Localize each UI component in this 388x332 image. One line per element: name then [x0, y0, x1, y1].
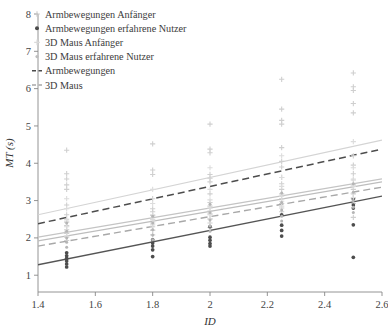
data-point [351, 215, 356, 220]
legend-label: Armbewegungen Anfänger [45, 9, 156, 20]
data-point [150, 201, 155, 206]
data-point [64, 206, 69, 211]
data-point [150, 141, 155, 146]
legend-dot-icon [35, 26, 39, 30]
data-point [65, 230, 68, 233]
data-point [150, 187, 155, 192]
data-point [351, 153, 356, 158]
data-point [207, 187, 212, 192]
data-point [151, 255, 155, 259]
data-point [151, 228, 154, 231]
x-tick-label: 1.8 [146, 299, 159, 310]
y-axis-title: MT (s) [3, 138, 16, 169]
data-point [151, 248, 155, 252]
data-point [279, 153, 284, 158]
legend-plus-icon [34, 11, 40, 17]
data-point [64, 148, 69, 153]
data-point [352, 211, 355, 214]
data-point [351, 139, 356, 144]
data-point [64, 182, 69, 187]
y-tick-label: 8 [26, 9, 31, 20]
data-point [64, 171, 69, 176]
x-tick-label: 1.4 [31, 299, 45, 310]
data-point [150, 167, 155, 172]
data-point [151, 233, 154, 236]
data-point [64, 196, 69, 201]
data-point [280, 215, 283, 218]
data-point [280, 234, 284, 238]
data-point [280, 208, 283, 211]
data-point [151, 244, 155, 248]
x-axis-title: ID [203, 315, 216, 327]
data-point [279, 77, 284, 82]
data-point [207, 191, 212, 196]
data-point [207, 121, 212, 126]
data-point [351, 88, 356, 93]
data-point [280, 220, 283, 223]
data-point [351, 70, 356, 75]
data-point [150, 196, 155, 201]
data-point [64, 176, 69, 181]
legend-dot-small-icon [35, 55, 38, 58]
y-tick-label: 5 [26, 121, 31, 132]
data-point [207, 197, 212, 202]
y-tick-label: 3 [26, 195, 31, 206]
data-point [279, 164, 284, 169]
data-point [209, 211, 212, 214]
data-point [279, 175, 284, 180]
legend-label: Armbewegungen [45, 65, 115, 76]
data-point [151, 221, 154, 224]
data-point [65, 246, 68, 249]
data-point [352, 191, 355, 194]
data-point [208, 244, 212, 248]
data-point [280, 201, 283, 204]
y-tick-label: 2 [26, 232, 31, 243]
data-point [279, 107, 284, 112]
x-tick-label: 2.4 [318, 299, 332, 310]
data-point [351, 101, 356, 106]
data-point [65, 236, 68, 239]
data-point [208, 238, 212, 242]
legend-label: 3D Maus [45, 80, 83, 91]
data-point [64, 224, 69, 229]
y-tick-label: 1 [26, 270, 31, 281]
data-point [351, 110, 356, 115]
data-point [209, 203, 212, 206]
data-point [351, 171, 356, 176]
data-point [280, 229, 284, 233]
data-point [280, 223, 284, 227]
data-point [207, 179, 212, 184]
x-tick-label: 1.6 [89, 299, 102, 310]
y-tick-label: 6 [26, 83, 31, 94]
data-point [351, 176, 356, 181]
data-point [352, 182, 355, 185]
data-point [207, 150, 212, 155]
data-point [207, 165, 212, 170]
data-point [64, 187, 69, 192]
data-point [65, 265, 69, 269]
data-point [151, 215, 154, 218]
chart-container: 123456781.41.61.822.22.42.6IDMT (s)Armbe… [0, 0, 388, 332]
data-point [351, 165, 356, 170]
data-point [65, 241, 68, 244]
scatter-plot: 123456781.41.61.822.22.42.6IDMT (s)Armbe… [0, 0, 388, 332]
data-point [151, 238, 154, 241]
x-tick-label: 2.6 [375, 299, 388, 310]
data-point [351, 223, 355, 227]
x-tick-label: 2.2 [261, 299, 274, 310]
data-point [351, 255, 355, 259]
data-point [352, 206, 355, 209]
y-tick-label: 7 [26, 46, 31, 57]
legend-label: 3D Maus Anfänger [45, 37, 124, 48]
legend: Armbewegungen AnfängerArmbewegungen erfa… [32, 9, 187, 91]
data-point [279, 121, 284, 126]
data-point [150, 172, 155, 177]
legend-plus-icon [34, 40, 40, 46]
y-tick-label: 4 [26, 158, 32, 169]
legend-label: 3D Maus erfahrene Nutzer [45, 51, 155, 62]
legend-label: Armbewegungen erfahrene Nutzer [45, 23, 187, 34]
data-point [279, 145, 284, 150]
data-point [279, 184, 284, 189]
data-point [64, 212, 69, 217]
data-point [209, 224, 212, 227]
